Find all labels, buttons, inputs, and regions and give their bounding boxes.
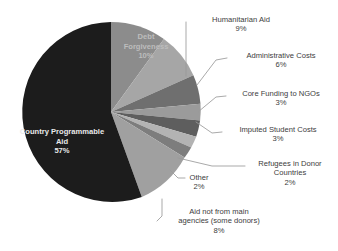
callout-core-funding-to-ngos: Core Funding to NGOs 3%: [227, 89, 335, 108]
leader-line-core-funding-to-ngos: [198, 96, 226, 112]
pie-chart-figure: Debt Forgiveness 10% Country Programmabl…: [0, 0, 338, 251]
leader-line-administrative-costs: [197, 58, 227, 85]
slice-label-debt-forgiveness: Debt Forgiveness 10%: [103, 32, 189, 61]
slice-label-country-programmable-aid: Country Programmable Aid 57%: [7, 127, 117, 156]
callout-humanitarian-aid: Humanitarian Aid 9%: [189, 15, 293, 34]
callout-aid-not-from-main-agencies: Aid not from main agencies (some donors)…: [160, 207, 278, 235]
callout-other: Other 2%: [178, 173, 220, 192]
leader-line-refugees-in-donor-countries: [178, 158, 245, 166]
callout-imputed-student-costs: Imputed Student Costs 3%: [223, 125, 333, 144]
leader-line-imputed-student-costs: [196, 122, 222, 133]
callout-refugees-in-donor-countries: Refugees in Donor Countries 2%: [246, 159, 334, 187]
callout-administrative-costs: Administrative Costs 6%: [228, 51, 334, 70]
